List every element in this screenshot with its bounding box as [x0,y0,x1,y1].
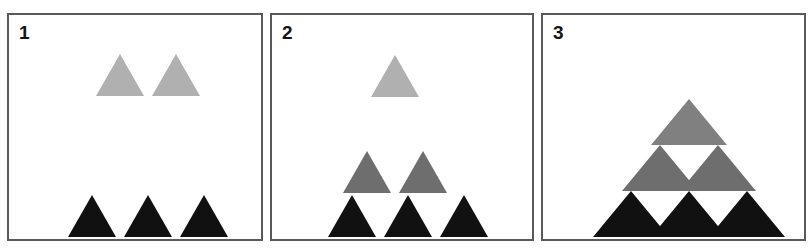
panel-two: 2 [270,13,534,241]
triangle-black-p1-a [68,195,116,237]
panel-one: 1 [7,13,263,241]
triangle-light-p1-b [152,54,200,96]
triangle-gray-p3-apex [651,99,727,145]
triangle-gray-p2-b [399,151,447,193]
triangle-black-p1-b [124,195,172,237]
triangle-black-p2-b [384,195,432,237]
panel-three-label: 3 [553,23,564,42]
panel-one-label: 1 [19,23,30,42]
panel-two-label: 2 [282,23,293,42]
triangle-gray-p2-a [343,151,391,193]
triangle-gray-p3-b [680,145,756,191]
triangle-black-p1-c [180,195,228,237]
figure-canvas: 1 2 3 [0,0,811,252]
triangle-black-p2-a [328,195,376,237]
triangle-light-p2-apex [371,55,419,97]
triangle-light-p1-a [96,54,144,96]
triangle-black-p3-c [709,191,785,237]
panel-three: 3 [541,13,806,241]
triangle-black-p2-c [440,195,488,237]
